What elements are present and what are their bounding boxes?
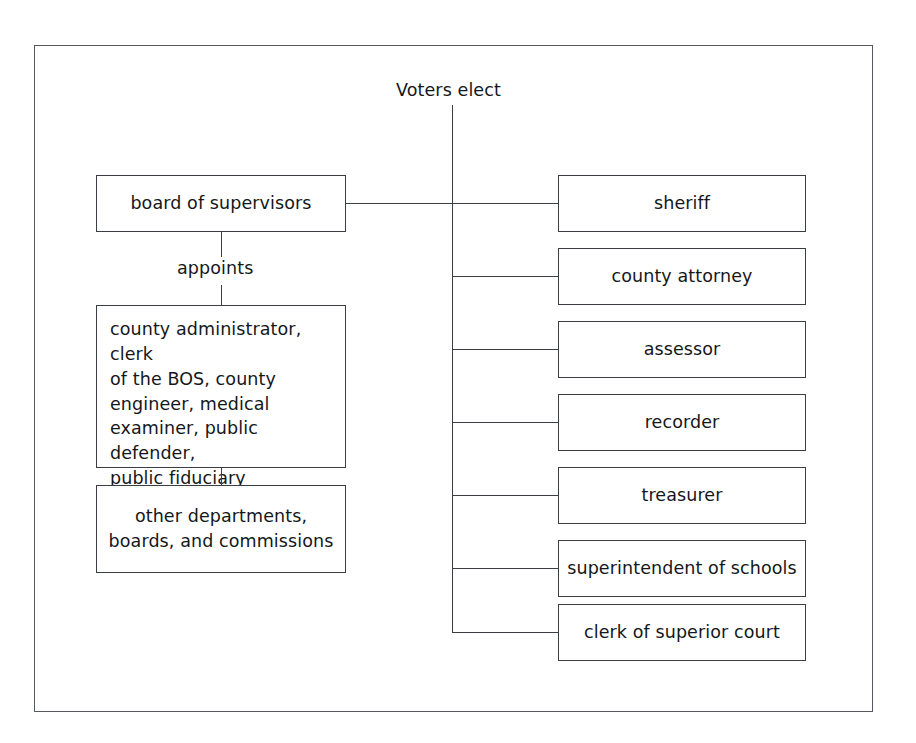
node-office-recorder-label: recorder <box>559 410 805 435</box>
node-appointed-officials[interactable]: county administrator, clerk of the BOS, … <box>96 305 346 468</box>
node-office-clerk-of-superior-court-label: clerk of superior court <box>559 620 805 645</box>
node-office-county-attorney-label: county attorney <box>559 264 805 289</box>
node-office-recorder[interactable]: recorder <box>558 394 806 451</box>
node-office-clerk-of-superior-court[interactable]: clerk of superior court <box>558 604 806 661</box>
edge-appoints-to-officials-lower <box>221 285 222 305</box>
edge-trunk-to-recorder <box>452 422 558 423</box>
node-office-assessor[interactable]: assessor <box>558 321 806 378</box>
node-office-sheriff-label: sheriff <box>559 191 805 216</box>
appoints-label: appoints <box>177 258 253 278</box>
node-office-assessor-label: assessor <box>559 337 805 362</box>
node-office-county-attorney[interactable]: county attorney <box>558 248 806 305</box>
node-office-superintendent-of-schools[interactable]: superintendent of schools <box>558 540 806 597</box>
node-board-of-supervisors-label: board of supervisors <box>97 191 345 216</box>
node-board-of-supervisors[interactable]: board of supervisors <box>96 175 346 232</box>
node-office-superintendent-of-schools-label: superintendent of schools <box>559 556 805 581</box>
node-other-departments[interactable]: other departments, boards, and commissio… <box>96 485 346 573</box>
voters-elect-label: Voters elect <box>396 80 501 100</box>
node-office-treasurer-label: treasurer <box>559 483 805 508</box>
voters-elect-trunk-line <box>452 105 453 632</box>
edge-trunk-to-superintendent-of-schools <box>452 568 558 569</box>
node-other-departments-label: other departments, boards, and commissio… <box>97 504 345 554</box>
node-office-sheriff[interactable]: sheriff <box>558 175 806 232</box>
edge-board-to-appoints-upper <box>221 232 222 257</box>
edge-officials-to-other-departments <box>221 468 222 485</box>
edge-board-to-sheriff <box>346 203 558 204</box>
edge-trunk-to-clerk-of-superior-court <box>452 632 558 633</box>
node-office-treasurer[interactable]: treasurer <box>558 467 806 524</box>
edge-trunk-to-treasurer <box>452 495 558 496</box>
edge-trunk-to-county-attorney <box>452 276 558 277</box>
edge-trunk-to-assessor <box>452 349 558 350</box>
organization-chart: Voters elect board of supervisors appoin… <box>0 0 916 743</box>
node-appointed-officials-label: county administrator, clerk of the BOS, … <box>97 306 345 491</box>
